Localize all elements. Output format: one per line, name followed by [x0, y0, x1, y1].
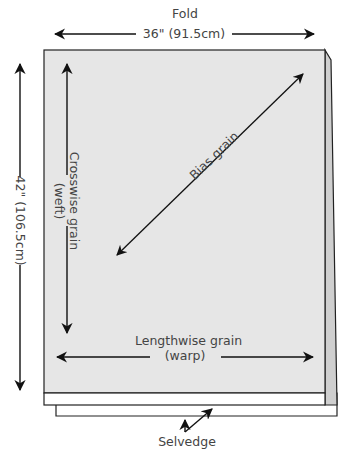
width-label: 36" (91.5cm) [136, 26, 232, 41]
lengthwise-grain-label: Lengthwise grain (warp) [135, 333, 235, 363]
selvedge-label: Selvedge [150, 434, 224, 449]
lengthwise-grain-line1: Lengthwise grain [135, 333, 235, 348]
lengthwise-grain-line2: (warp) [135, 348, 235, 363]
crosswise-grain-label: Crosswise grain (weft) [52, 151, 82, 251]
fabric-grain-diagram: Fold 36" (91.5cm) 42" (106.5cm) Crosswis… [0, 0, 343, 453]
crosswise-grain-line1: Crosswise grain [67, 151, 82, 251]
length-label: 42" (106.5cm) [13, 176, 28, 266]
fold-label: Fold [160, 6, 210, 21]
crosswise-grain-line2: (weft) [52, 151, 67, 251]
